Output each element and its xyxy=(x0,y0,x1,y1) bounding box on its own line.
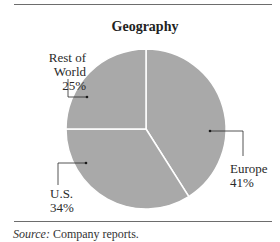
pie-chart xyxy=(0,0,280,242)
label-europe-name: Europe xyxy=(230,162,268,176)
source-note: Source: Company reports. xyxy=(13,227,139,242)
bottom-rule xyxy=(14,221,272,222)
label-us-name: U.S. xyxy=(50,187,74,201)
label-rest-of-world-value: 25% xyxy=(14,79,86,93)
label-us: U.S. 34% xyxy=(50,187,74,215)
label-europe-value: 41% xyxy=(230,176,268,190)
label-us-value: 34% xyxy=(50,201,74,215)
source-text: Company reports. xyxy=(50,227,139,241)
source-label: Source: xyxy=(13,227,50,241)
label-europe: Europe 41% xyxy=(230,162,268,190)
label-rest-of-world: Rest of World 25% xyxy=(14,51,86,93)
label-rest-of-world-name: Rest of World xyxy=(14,51,86,79)
